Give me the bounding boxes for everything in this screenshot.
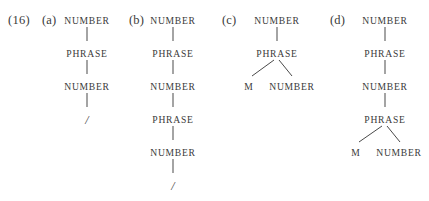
tree-d-node-6-number: NUMBER [376,147,422,158]
syntax-tree-figure: (16) (a)NUMBERPHRASENUMBER/(b)NUMBERPHRA… [0,0,429,201]
tree-d-node-5-m: M [351,147,360,158]
tree-d-node-1-number: NUMBER [362,15,408,26]
tree-d-branches [0,0,429,201]
tree-d-node-2-phrase: PHRASE [364,48,405,59]
tree-d-node-4-phrase: PHRASE [364,114,405,125]
tree-d-node-3-number: NUMBER [362,81,408,92]
tree-d-branch-2 [387,126,400,142]
tree-d-branch-1 [359,126,382,142]
